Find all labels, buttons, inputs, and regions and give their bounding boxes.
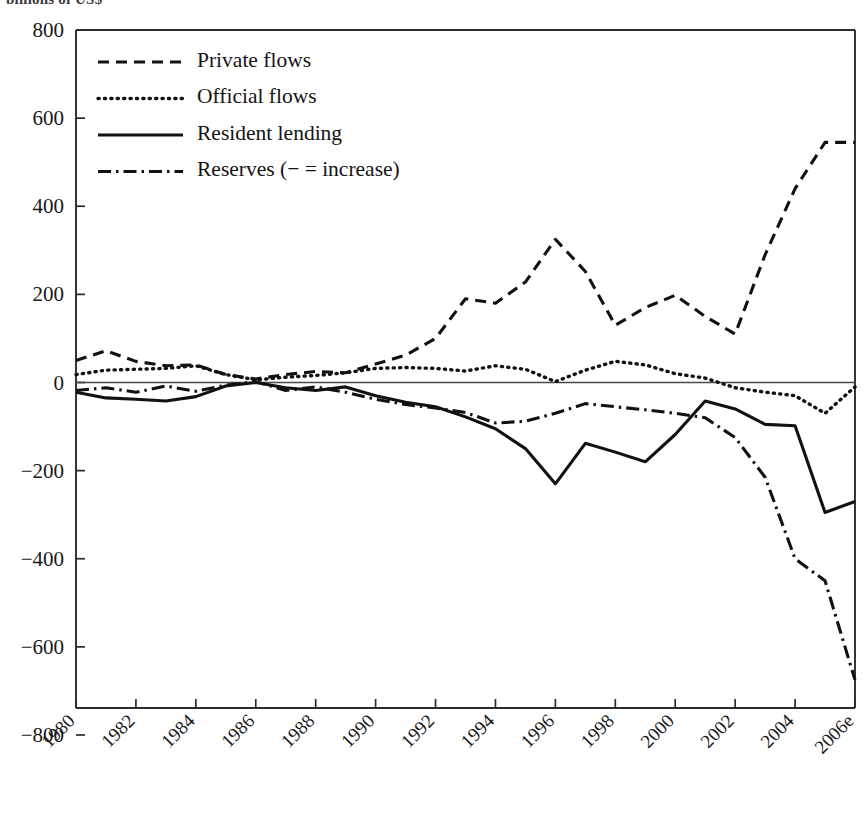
- y-tick-label: 200: [33, 282, 65, 306]
- y-tick-label: −600: [21, 635, 64, 659]
- series-reserves: [76, 382, 855, 680]
- y-tick-label: −400: [21, 547, 64, 571]
- x-tick-label: 2004: [756, 710, 798, 752]
- series-resident-lending: [76, 383, 855, 513]
- x-tick-label: 1990: [337, 710, 379, 752]
- legend-label: Official flows: [197, 84, 317, 108]
- x-tick-label: 2000: [636, 710, 678, 752]
- legend-label: Reserves (− = increase): [197, 157, 400, 181]
- series-private-flows: [76, 142, 855, 379]
- legend-label: Resident lending: [197, 121, 342, 145]
- y-tick-label: 800: [33, 18, 65, 42]
- x-tick-label: 1986: [217, 710, 259, 752]
- x-tick-label: 1996: [516, 710, 558, 752]
- legend-item: Private flows: [98, 48, 311, 72]
- series-official-flows: [76, 361, 855, 413]
- legend-item: Official flows: [98, 84, 317, 108]
- chart-figure: billions of US$ 8006004002000−200−400−60…: [0, 0, 868, 818]
- y-tick-label: −200: [21, 459, 64, 483]
- x-tick-label: 1994: [457, 710, 499, 752]
- legend-label: Private flows: [197, 48, 311, 72]
- legend-item: Resident lending: [98, 121, 342, 145]
- x-tick-label: 1998: [576, 710, 618, 752]
- legend-item: Reserves (− = increase): [98, 157, 400, 181]
- y-tick-label: 600: [33, 106, 65, 130]
- x-tick-label: 2002: [696, 710, 738, 752]
- line-chart-canvas: 8006004002000−200−400−600−80019801982198…: [0, 0, 868, 818]
- y-tick-label: 0: [54, 371, 65, 395]
- x-tick-label: 1982: [97, 710, 139, 752]
- x-tick-label: 2006e: [810, 710, 858, 758]
- x-tick-label: 1988: [277, 710, 319, 752]
- x-tick-label: 1992: [397, 710, 439, 752]
- y-tick-label: 400: [33, 194, 65, 218]
- x-tick-label: 1984: [157, 710, 199, 752]
